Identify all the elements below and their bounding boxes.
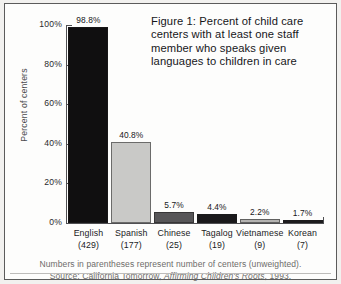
y-tick-label: 100% xyxy=(39,19,62,29)
bar-slot: 98.8% xyxy=(68,25,108,223)
bar-vietnamese[interactable] xyxy=(240,219,280,223)
bar-value-label: 4.4% xyxy=(207,202,227,212)
x-axis-category-labels: English(429)Spanish(177)Chinese(25)Tagal… xyxy=(67,227,324,255)
category-name: Korean xyxy=(277,227,328,239)
bar-slot: 1.7% xyxy=(283,25,323,223)
bar-value-label: 98.8% xyxy=(76,15,100,25)
category-label-korean: Korean(7) xyxy=(277,227,328,252)
bar-slot: 2.2% xyxy=(240,25,280,223)
bar-slot: 4.4% xyxy=(197,25,237,223)
bar-value-label: 5.7% xyxy=(164,200,184,210)
category-count: (7) xyxy=(277,239,328,251)
bar-slot: 5.7% xyxy=(154,25,194,223)
bar-english[interactable] xyxy=(68,27,108,223)
bar-value-label: 2.2% xyxy=(250,207,270,217)
bar-series: 98.8%40.8%5.7%4.4%2.2%1.7% xyxy=(67,25,324,223)
figure-container: Figure 1: Percent of child care centers … xyxy=(0,0,341,284)
y-axis-title: Percent of centers xyxy=(19,50,29,160)
bar-spanish[interactable] xyxy=(111,142,151,223)
y-tick-label: 0% xyxy=(49,217,62,227)
y-tick-label: 20% xyxy=(44,177,62,187)
bar-korean[interactable] xyxy=(283,220,323,223)
x-axis-line xyxy=(66,223,324,224)
bar-value-label: 1.7% xyxy=(293,208,313,218)
footnote-unweighted: Numbers in parentheses represent number … xyxy=(17,259,324,271)
bar-slot: 40.8% xyxy=(111,25,151,223)
plot-area: 0%20%40%60%80%100% 98.8%40.8%5.7%4.4%2.2… xyxy=(66,25,324,223)
bar-tagalog[interactable] xyxy=(197,214,237,223)
bar-value-label: 40.8% xyxy=(119,130,143,140)
y-tick-label: 40% xyxy=(44,138,62,148)
y-tick-label: 60% xyxy=(44,98,62,108)
figure-footnotes: Numbers in parentheses represent number … xyxy=(17,259,324,282)
y-tick-0: 0% xyxy=(67,223,72,224)
bar-chinese[interactable] xyxy=(154,212,194,223)
y-tick-label: 80% xyxy=(44,59,62,69)
footer-divider xyxy=(10,273,331,274)
figure-frame: Figure 1: Percent of child care centers … xyxy=(4,3,337,280)
